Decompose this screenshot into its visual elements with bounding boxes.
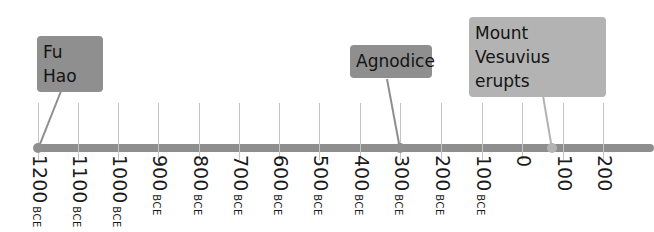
tick-mark <box>239 103 240 160</box>
event-label-box: Fu Hao <box>37 36 103 92</box>
tick-mark <box>279 103 280 160</box>
tick-era: BCE <box>151 194 162 216</box>
tick-year: 200 <box>594 155 616 191</box>
tick-label: 700BCE <box>230 155 252 216</box>
tick-label: 600BCE <box>270 155 292 216</box>
tick-year: 300 <box>391 155 413 191</box>
tick-year: 1100 <box>69 155 91 203</box>
tick-label: 400BCE <box>351 155 373 216</box>
tick-era: BCE <box>475 194 486 216</box>
tick-year: 900 <box>149 155 171 191</box>
tick-year: 0 <box>513 155 535 167</box>
tick-year: 1200 <box>29 155 51 203</box>
tick-era: BCE <box>192 194 203 216</box>
tick-mark <box>360 103 361 160</box>
tick-year: 1000 <box>109 155 131 203</box>
tick-mark <box>603 103 604 160</box>
tick-mark <box>158 103 159 160</box>
tick-year: 200 <box>432 155 454 191</box>
tick-year: 100 <box>554 155 576 191</box>
tick-era: BCE <box>71 206 82 228</box>
tick-label: 500BCE <box>310 155 332 216</box>
tick-label: 800BCE <box>190 155 212 216</box>
event-marker-dot <box>395 143 405 153</box>
tick-mark <box>522 103 523 160</box>
event-marker-dot <box>547 143 557 153</box>
tick-mark <box>563 103 564 160</box>
tick-mark <box>319 103 320 160</box>
tick-year: 700 <box>230 155 252 191</box>
tick-era: BCE <box>393 194 404 216</box>
tick-label: 200 <box>594 155 616 194</box>
tick-year: 100 <box>473 155 495 191</box>
event-marker-dot <box>33 143 43 153</box>
tick-label: 1000BCE <box>109 155 131 228</box>
tick-mark <box>78 103 79 160</box>
tick-era: BCE <box>232 194 243 216</box>
event-connector-line <box>386 79 401 149</box>
tick-year: 600 <box>270 155 292 191</box>
tick-era: BCE <box>353 194 364 216</box>
tick-era: BCE <box>111 206 122 228</box>
tick-label: 900BCE <box>149 155 171 216</box>
tick-label: 300BCE <box>391 155 413 216</box>
tick-year: 800 <box>190 155 212 191</box>
tick-era: BCE <box>312 194 323 216</box>
event-label-box: Mount Vesuvius erupts <box>469 17 606 97</box>
tick-year: 500 <box>310 155 332 191</box>
tick-mark <box>441 103 442 160</box>
timeline-axis <box>34 144 654 152</box>
tick-label: 1100BCE <box>69 155 91 228</box>
tick-year: 400 <box>351 155 373 191</box>
tick-label: 100BCE <box>473 155 495 216</box>
tick-label: 1200BCE <box>29 155 51 228</box>
tick-label: 100 <box>554 155 576 194</box>
event-label-box: Agnodice <box>350 45 432 78</box>
tick-mark <box>118 103 119 160</box>
tick-mark <box>482 103 483 160</box>
tick-era: BCE <box>31 206 42 228</box>
tick-era: BCE <box>272 194 283 216</box>
tick-label: 200BCE <box>432 155 454 216</box>
tick-label: 0 <box>513 155 535 170</box>
tick-mark <box>199 103 200 160</box>
tick-era: BCE <box>434 194 445 216</box>
